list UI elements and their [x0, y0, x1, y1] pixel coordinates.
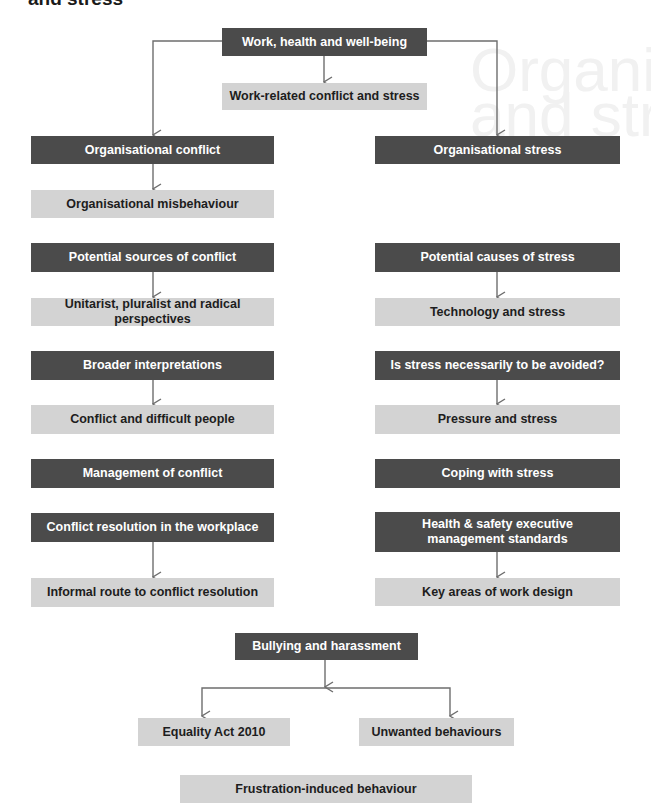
node-potential-sources-of-conflict: Potential sources of conflict: [31, 243, 274, 272]
connector-lines: [0, 0, 651, 806]
page-heading: and stress: [28, 0, 123, 10]
node-informal-route-conflict-resolution: Informal route to conflict resolution: [31, 578, 274, 607]
node-is-stress-to-be-avoided: Is stress necessarily to be avoided?: [375, 351, 620, 380]
node-management-of-conflict: Management of conflict: [31, 459, 274, 488]
connector-bullying-right: [325, 688, 450, 716]
node-key-areas-work-design: Key areas of work design: [375, 578, 620, 606]
node-conflict-resolution-workplace: Conflict resolution in the workplace: [31, 513, 274, 542]
node-organisational-misbehaviour: Organisational misbehaviour: [31, 190, 274, 218]
connector-bullying-left: [202, 688, 325, 716]
node-equality-act-2010: Equality Act 2010: [138, 718, 290, 746]
node-work-related-conflict-stress: Work-related conflict and stress: [222, 83, 427, 110]
node-unwanted-behaviours: Unwanted behaviours: [359, 718, 514, 746]
node-technology-and-stress: Technology and stress: [375, 298, 620, 326]
node-hse-management-standards: Health & safety executive management sta…: [375, 512, 620, 552]
connector-root-to-left: [153, 41, 222, 135]
node-bullying-and-harassment: Bullying and harassment: [235, 633, 418, 660]
node-organisational-conflict: Organisational conflict: [31, 136, 274, 164]
node-organisational-stress: Organisational stress: [375, 136, 620, 164]
node-conflict-difficult-people: Conflict and difficult people: [31, 405, 274, 434]
node-potential-causes-of-stress: Potential causes of stress: [375, 243, 620, 272]
node-coping-with-stress: Coping with stress: [375, 459, 620, 488]
node-frustration-induced-behaviour: Frustration-induced behaviour: [180, 775, 472, 803]
node-broader-interpretations: Broader interpretations: [31, 351, 274, 380]
connector-root-to-right: [427, 41, 497, 135]
node-unitarist-pluralist-radical: Unitarist, pluralist and radical perspec…: [31, 298, 274, 326]
node-work-health-wellbeing: Work, health and well-being: [222, 28, 427, 56]
node-pressure-and-stress: Pressure and stress: [375, 405, 620, 434]
